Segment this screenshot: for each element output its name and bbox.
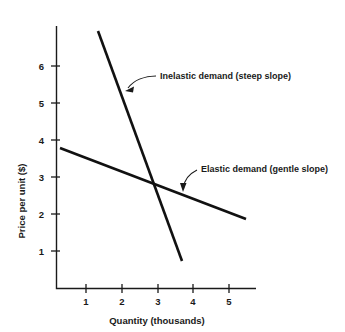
- y-tick-label-6: 6: [39, 61, 44, 72]
- series-line-inelastic: [98, 31, 182, 261]
- inelastic-annotation-label: Inelastic demand (steep slope): [160, 71, 291, 81]
- y-axis-ticks: [51, 66, 60, 251]
- y-tick-label-5: 5: [39, 98, 45, 109]
- elastic-annotation-label: Elastic demand (gentle slope): [201, 164, 328, 174]
- chart-plot-area: 6 5 4 3 2 1 1 2 3 4 5 Quantity (thousand…: [0, 0, 345, 332]
- x-tick-label-1: 1: [83, 296, 89, 307]
- x-tick-label-4: 4: [190, 296, 196, 307]
- series-line-elastic: [60, 148, 246, 219]
- y-tick-label-4: 4: [39, 135, 45, 146]
- x-tick-label-5: 5: [226, 296, 232, 307]
- elastic-arrowhead-icon: [180, 183, 187, 192]
- x-axis-tick-labels: 1 2 3 4 5: [83, 296, 232, 307]
- inelastic-leader-line: [128, 76, 156, 88]
- y-tick-label-3: 3: [39, 172, 44, 183]
- demand-curve-chart: 6 5 4 3 2 1 1 2 3 4 5 Quantity (thousand…: [0, 0, 345, 332]
- inelastic-arrowhead-icon: [125, 87, 134, 93]
- x-tick-label-3: 3: [155, 296, 160, 307]
- annotation-inelastic: Inelastic demand (steep slope): [125, 71, 291, 93]
- y-axis-tick-labels: 6 5 4 3 2 1: [39, 61, 45, 257]
- x-axis-title: Quantity (thousands): [109, 315, 205, 326]
- x-tick-label-2: 2: [119, 296, 124, 307]
- y-axis-title: Price per unit ($): [16, 164, 27, 239]
- annotation-elastic: Elastic demand (gentle slope): [180, 164, 328, 192]
- y-tick-label-1: 1: [39, 246, 45, 257]
- y-tick-label-2: 2: [39, 209, 44, 220]
